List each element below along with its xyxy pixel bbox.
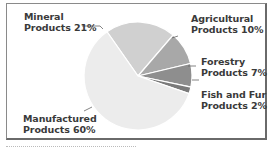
label-manufactured-line2: Products 60% — [23, 124, 97, 135]
label-mineral: Mineral Products 21% — [24, 11, 96, 33]
label-agricultural-line1: Agricultural — [191, 13, 263, 24]
label-fish-line2: Products 2% — [201, 100, 267, 111]
leader-manufactured — [84, 107, 92, 111]
label-mineral-line1: Mineral — [24, 11, 96, 22]
label-mineral-line2: Products 21% — [24, 22, 96, 33]
label-agricultural: Agricultural Products 10% — [191, 13, 263, 35]
label-fish: Fish and Fur Products 2% — [201, 89, 267, 111]
label-manufactured-line1: Manufactured — [23, 113, 97, 124]
label-manufactured: Manufactured Products 60% — [23, 113, 97, 135]
label-forestry: Forestry Products 7% — [201, 56, 267, 78]
label-forestry-line2: Products 7% — [201, 67, 267, 78]
label-forestry-line1: Forestry — [201, 56, 267, 67]
label-agricultural-line2: Products 10% — [191, 24, 263, 35]
label-fish-line1: Fish and Fur — [201, 89, 267, 100]
caption-remnant — [6, 146, 136, 154]
